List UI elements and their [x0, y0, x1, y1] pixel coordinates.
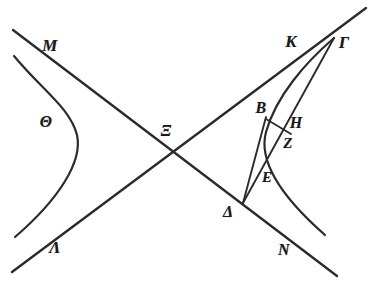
- point-label-z: Z: [283, 136, 292, 151]
- point-label-h: H: [290, 115, 303, 131]
- point-label-e: E: [262, 170, 272, 185]
- hyperbola-right-branch: [264, 38, 334, 235]
- geometry-figure: MΘΛΞKΓBHZEΔN: [0, 0, 377, 295]
- point-label-b: B: [256, 100, 267, 116]
- point-label-lambda: Λ: [49, 239, 61, 256]
- point-label-m: M: [42, 37, 57, 54]
- point-label-gamma: Γ: [339, 34, 349, 51]
- point-label-theta: Θ: [40, 114, 52, 130]
- line-Delta-B: [243, 117, 266, 203]
- line-Delta-Gamma: [243, 38, 334, 203]
- point-label-delta: Δ: [223, 204, 233, 220]
- point-label-n: N: [278, 242, 290, 258]
- point-label-k: K: [285, 33, 297, 50]
- point-label-xi: Ξ: [161, 123, 172, 139]
- asymptote-Lambda-Gamma: [12, 8, 366, 272]
- hyperbola-left-branch: [14, 56, 78, 237]
